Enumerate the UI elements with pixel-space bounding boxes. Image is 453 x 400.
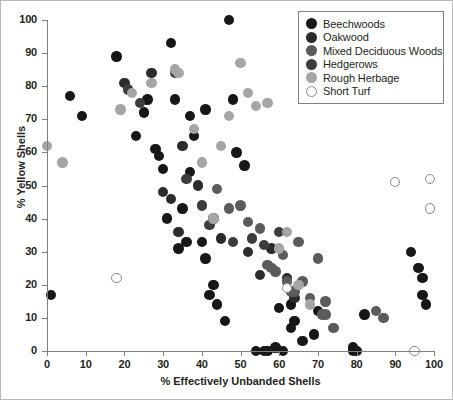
x-tick [434,351,435,356]
y-tick [42,186,47,187]
data-point [293,280,303,290]
data-point [212,299,222,309]
data-point [216,141,226,151]
data-point [413,263,423,273]
legend-marker-icon [306,18,317,29]
x-tick-label: 30 [143,358,183,370]
data-point [200,104,210,114]
y-tick [42,53,47,54]
data-point [154,151,164,161]
legend-item-label: Hedgerows [323,58,378,70]
data-point [270,266,280,276]
legend-item-label: Short Turf [323,85,370,97]
y-tick [42,219,47,220]
data-point [274,243,284,253]
x-tick [202,351,203,356]
y-tick [42,351,47,352]
data-point [259,240,269,250]
x-tick [124,351,125,356]
x-tick-label: 60 [259,358,299,370]
legend-item-oakwood: Oakwood [306,31,437,45]
data-point [228,94,238,104]
data-point [127,88,137,98]
data-point [177,203,187,213]
data-point [131,131,141,141]
data-point [77,111,87,121]
y-tick [42,152,47,153]
legend-item-label: Mixed Deciduous Woods [323,45,442,57]
x-tick-label: 10 [66,358,106,370]
data-point [111,273,121,283]
y-tick [42,285,47,286]
data-point [173,68,183,78]
x-tick-label: 70 [298,358,338,370]
y-tick-label: 10 [1,311,37,323]
data-point [65,91,75,101]
legend-item-mixed-deciduous-woods: Mixed Deciduous Woods [306,44,437,58]
data-point [216,233,226,243]
data-point [406,247,416,257]
x-tick [86,351,87,356]
data-point [425,174,435,184]
x-axis-label: % Effectively Unbanded Shells [47,375,434,387]
legend-marker-icon [306,72,317,83]
y-tick [42,86,47,87]
legend-item-hedgerows: Hedgerows [306,58,437,72]
x-tick-label: 80 [337,358,377,370]
data-point [243,217,253,227]
data-point [228,237,238,247]
y-tick-label: 0 [1,344,37,356]
legend-marker-icon [306,86,317,97]
data-point [177,141,187,151]
data-point [262,98,272,108]
y-tick [42,318,47,319]
data-point [224,203,234,213]
data-point [239,160,249,170]
legend-item-rough-herbage: Rough Herbage [306,71,437,85]
y-axis-label: % Yellow Shells [15,102,27,232]
data-point [313,253,323,263]
data-point [378,313,388,323]
x-tick-label: 100 [414,358,453,370]
x-tick-label: 50 [221,358,261,370]
y-tick [42,20,47,21]
legend-item-label: Rough Herbage [323,72,399,84]
x-tick [357,351,358,356]
x-tick [241,351,242,356]
data-point [224,111,234,121]
data-point [255,270,265,280]
data-point [224,15,234,25]
data-point [173,227,183,237]
data-point [193,180,203,190]
data-point [289,316,299,326]
y-tick-label: 20 [1,278,37,290]
x-tick-label: 20 [104,358,144,370]
data-point [166,194,176,204]
data-point [158,164,168,174]
data-point [293,237,303,247]
data-point [204,290,214,300]
data-point [425,203,435,213]
x-tick-label: 90 [375,358,415,370]
legend-item-label: Oakwood [323,31,369,43]
legend-item-short-turf: Short Turf [306,85,437,99]
data-point [146,68,156,78]
x-tick [318,351,319,356]
data-point [320,309,330,319]
data-point [251,101,261,111]
data-point [57,157,67,167]
data-point [208,280,218,290]
data-point [235,58,245,68]
y-tick-label: 100 [1,13,37,25]
data-point [170,94,180,104]
data-point [255,223,265,233]
x-tick [279,351,280,356]
data-point [197,237,207,247]
scatter-plot-figure: 0102030405060708090100 01020304050607080… [0,0,453,400]
data-point [212,184,222,194]
y-tick-label: 80 [1,79,37,91]
data-point [235,200,245,210]
data-point [139,107,149,117]
data-point [320,296,330,306]
data-point [243,88,253,98]
